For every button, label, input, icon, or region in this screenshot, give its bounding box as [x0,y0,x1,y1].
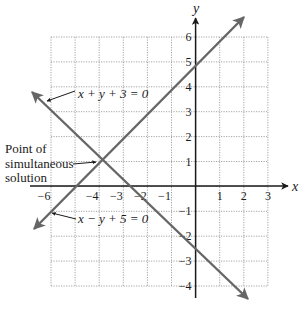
x-tick-label: −6 [38,189,51,203]
equation-label-1: x + y + 3 = 0 [47,86,149,101]
x-axis-label: x [291,179,299,194]
x-tick-label: 2 [241,189,247,203]
x-tick-label: −3 [110,189,123,203]
y-tick-labels: 654321−1−2−3−4 [179,30,192,293]
dotted-grid [51,37,268,286]
y-tick-label: 2 [186,130,192,144]
y-tick-label: 1 [186,155,192,169]
graph-figure: x y −6−4−3−2−1123 654321−1−2−3−4 x + y +… [0,0,304,309]
equation-label-2: x − y + 5 = 0 [52,211,149,226]
equation-x-plus-y-plus-3: x + y + 3 = 0 [77,86,149,101]
annotation-line-1: Point of [5,141,47,156]
y-tick-label: 3 [186,105,192,119]
annotation-line-3: solution [5,170,47,185]
y-tick-label: 5 [186,55,192,69]
equation-x-minus-y-plus-5: x − y + 5 = 0 [77,211,149,226]
y-tick-label: −4 [179,279,192,293]
x-tick-label: −1 [158,189,171,203]
x-tick-label: −4 [86,189,99,203]
y-tick-label: −1 [179,204,192,218]
y-axis: y [191,1,200,298]
y-tick-label: 4 [186,80,192,94]
x-tick-label: 3 [265,189,271,203]
y-tick-label: −3 [179,254,192,268]
y-axis-label: y [191,1,200,16]
y-tick-label: 6 [186,30,192,44]
x-tick-label: 1 [217,189,223,203]
annotation-line-2: simultaneous [5,156,74,171]
intersection-annotation: Point of simultaneous solution [5,141,96,185]
